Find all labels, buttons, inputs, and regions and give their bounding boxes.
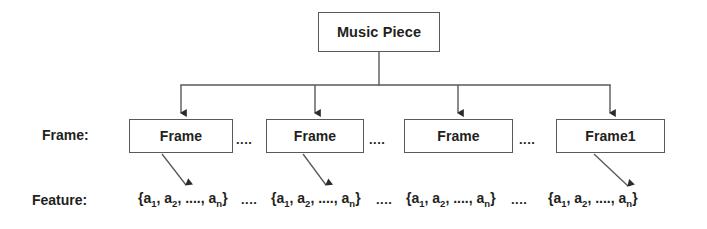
- frame-gap-ellipsis-1: ....: [369, 132, 385, 147]
- music-piece-node: Music Piece: [318, 12, 440, 52]
- feature-close-brace: }: [490, 190, 495, 206]
- feature-open-brace: {a: [271, 190, 284, 206]
- feature-gap-ellipsis-2: ....: [511, 192, 527, 207]
- feature-close-brace: }: [632, 190, 637, 206]
- feature-separator-2: , ...., a: [587, 190, 626, 206]
- frame-node-label: Frame: [294, 128, 337, 144]
- feature-separator-2: , ...., a: [445, 190, 484, 206]
- feature-vector-2: {a1, a2, ...., an}: [406, 190, 496, 209]
- music-piece-label: Music Piece: [337, 24, 421, 40]
- feature-separator-1: , a: [290, 190, 306, 206]
- feature-row-label: Feature:: [32, 192, 87, 208]
- feature-close-brace: }: [355, 190, 360, 206]
- feature-close-brace: }: [222, 190, 227, 206]
- feature-gap-ellipsis-0: ....: [241, 192, 257, 207]
- feature-open-brace: {a: [406, 190, 419, 206]
- frame-row-label: Frame:: [42, 127, 89, 143]
- feature-arrow-frame-1: [303, 154, 326, 185]
- frame-node-3: Frame1: [556, 119, 665, 153]
- feature-gap-ellipsis-1: ....: [376, 192, 392, 207]
- frame-node-label: Frame: [437, 128, 480, 144]
- feature-arrow-frame-0: [162, 154, 186, 185]
- feature-separator-1: , a: [157, 190, 173, 206]
- feature-arrow-frame-3: [594, 154, 628, 186]
- frame-node-1: Frame: [266, 119, 364, 153]
- feature-separator-1: , a: [425, 190, 441, 206]
- frame-gap-ellipsis-2: ....: [519, 132, 535, 147]
- frame-node-label: Frame1: [585, 128, 635, 144]
- feature-vector-0: {a1, a2, ...., an}: [138, 190, 228, 209]
- feature-vector-1: {a1, a2, ...., an}: [271, 190, 361, 209]
- music-piece-hierarchy-diagram: Music Piece Frame: Feature: Frame Frame …: [0, 0, 707, 229]
- feature-separator-2: , ...., a: [177, 190, 216, 206]
- feature-separator-2: , ...., a: [310, 190, 349, 206]
- feature-vector-3: {a1, a2, ...., an}: [548, 190, 638, 209]
- frame-node-label: Frame: [160, 128, 203, 144]
- feature-separator-1: , a: [567, 190, 583, 206]
- frame-node-0: Frame: [129, 119, 233, 153]
- frame-gap-ellipsis-0: ....: [236, 132, 252, 147]
- feature-open-brace: {a: [138, 190, 151, 206]
- frame-node-2: Frame: [404, 119, 513, 153]
- feature-open-brace: {a: [548, 190, 561, 206]
